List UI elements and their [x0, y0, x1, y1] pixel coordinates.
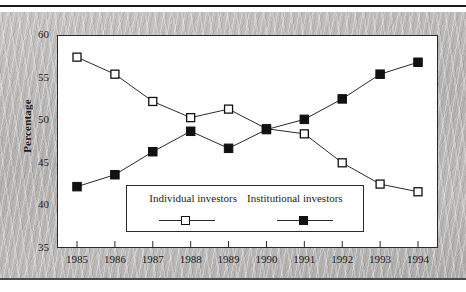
open-square-data-point: [225, 105, 233, 113]
legend-labels-row: Individual investors Institutional inves…: [127, 192, 365, 204]
filled-square-data-point: [111, 170, 120, 179]
legend-key-institutional: [277, 214, 333, 228]
series-line: [77, 62, 418, 186]
open-square-data-point: [338, 159, 346, 167]
filled-square-data-point: [224, 144, 233, 153]
filled-square-data-point: [414, 58, 423, 66]
data-series-group: [73, 53, 423, 196]
filled-square-data-point: [262, 125, 271, 134]
open-square-data-point: [300, 130, 308, 138]
chart-figure: Percentage 354045505560 1985198619871988…: [0, 0, 466, 292]
filled-square-data-point: [338, 95, 347, 104]
axis-tick-marks: [77, 241, 418, 247]
open-square-data-point: [73, 53, 81, 61]
filled-square-marker-icon: [299, 216, 308, 225]
open-square-data-point: [187, 114, 195, 122]
open-square-data-point: [111, 70, 119, 78]
filled-square-data-point: [149, 147, 158, 156]
chart-plot-svg: [0, 0, 466, 292]
open-square-data-point: [149, 97, 157, 105]
filled-square-data-point: [73, 182, 82, 191]
open-square-marker-icon: [181, 216, 190, 225]
chart-legend: Individual investors Institutional inves…: [126, 185, 364, 232]
legend-keys-row: [127, 212, 365, 230]
series-line: [77, 57, 418, 192]
legend-label-institutional: Institutional investors: [247, 192, 343, 204]
filled-square-data-point: [300, 115, 309, 124]
legend-label-individual: Individual investors: [149, 192, 237, 204]
legend-key-individual: [159, 214, 215, 228]
filled-square-data-point: [186, 127, 195, 136]
open-square-data-point: [414, 188, 422, 196]
filled-square-data-point: [376, 70, 385, 79]
open-square-data-point: [376, 180, 384, 188]
